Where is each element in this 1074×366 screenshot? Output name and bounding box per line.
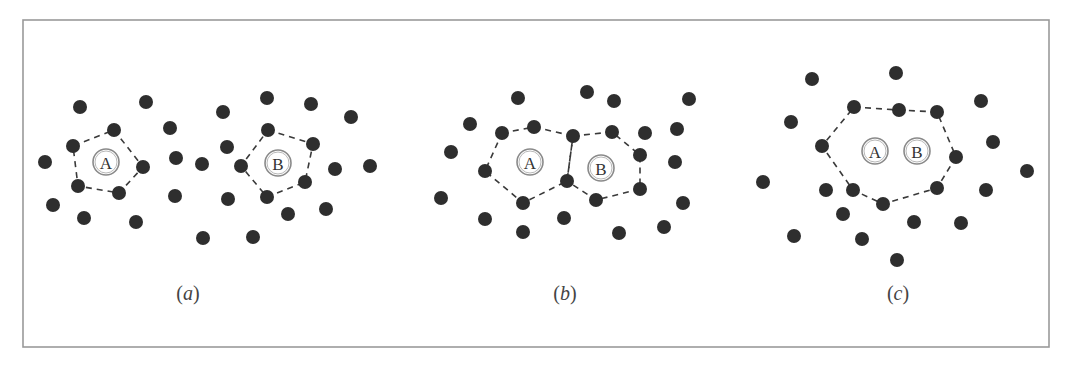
solvent-particle-dot	[889, 66, 903, 80]
solvent-particle-dot	[77, 211, 91, 225]
solvent-particle-dot	[787, 229, 801, 243]
solvent-particle-dot	[169, 151, 183, 165]
solvent-particle-dot	[220, 140, 234, 154]
solvent-particle-dot	[815, 139, 829, 153]
solvent-particle-dot	[907, 215, 921, 229]
solvent-particle-dot	[319, 202, 333, 216]
solvent-particle-dot	[986, 135, 1000, 149]
solvent-particle-dot	[638, 126, 652, 140]
solvent-particle-dot	[892, 103, 906, 117]
solvent-particle-dot	[221, 192, 235, 206]
solvent-particle-dot	[129, 215, 143, 229]
solvent-particle-dot	[478, 212, 492, 226]
solvent-particle-dot	[281, 207, 295, 221]
solvent-particle-dot	[516, 225, 530, 239]
solvent-particle-dot	[195, 157, 209, 171]
solvent-particle-dot	[495, 126, 509, 140]
panel-caption-b: (b)	[553, 282, 576, 305]
solvent-particle-dot	[107, 123, 121, 137]
solvent-particle-dot	[890, 253, 904, 267]
solvent-particle-dot	[304, 97, 318, 111]
caption-letter: c	[894, 282, 903, 304]
solvent-particle-dot	[444, 145, 458, 159]
solvent-particle-dot	[607, 94, 621, 108]
solvent-particle-dot	[979, 183, 993, 197]
solvent-particle-dot	[112, 186, 126, 200]
solvent-particle-dot	[930, 181, 944, 195]
solvent-particle-dot	[71, 179, 85, 193]
panel-caption-a: (a)	[176, 282, 199, 305]
solvent-particle-dot	[46, 198, 60, 212]
solvent-particle-dot	[930, 105, 944, 119]
solvent-particle-dot	[949, 150, 963, 164]
solvent-particle-dot	[756, 175, 770, 189]
solvent-particle-dot	[196, 231, 210, 245]
particle-b: B	[904, 138, 930, 164]
panel-a: AB(a)	[38, 91, 377, 305]
solvent-particle-dot	[633, 182, 647, 196]
solvent-particle-dot	[784, 115, 798, 129]
solvent-particle-dot	[328, 162, 342, 176]
caption-letter: a	[183, 282, 193, 304]
particle-label: B	[272, 155, 283, 174]
solvent-particle-dot	[633, 148, 647, 162]
solvent-particle-dot	[306, 137, 320, 151]
solvent-particle-dot	[612, 226, 626, 240]
solvent-particle-dot	[954, 216, 968, 230]
solvent-particle-dot	[363, 159, 377, 173]
solvent-particle-dot	[216, 105, 230, 119]
caption-letter: b	[560, 282, 570, 304]
particle-a: A	[517, 149, 543, 175]
solvent-particle-dot	[560, 174, 574, 188]
solvent-particle-dot	[670, 122, 684, 136]
figure-canvas: AB(a) AB(b) AB(c)	[0, 0, 1074, 366]
solvent-particle-dot	[668, 155, 682, 169]
solvent-particle-dot	[580, 85, 594, 99]
solvent-particle-dot	[344, 110, 358, 124]
particle-a: A	[862, 138, 888, 164]
solvent-particle-dot	[676, 196, 690, 210]
solvent-particle-dot	[974, 94, 988, 108]
solvent-particle-dot	[836, 207, 850, 221]
caption-close-paren: )	[902, 282, 909, 305]
solvent-particle-dot	[566, 129, 580, 143]
particle-label: B	[911, 143, 922, 162]
panel-b: AB(b)	[434, 85, 696, 305]
solvent-particle-dot	[168, 189, 182, 203]
solvent-particle-dot	[163, 121, 177, 135]
caption-close-paren: )	[570, 282, 577, 305]
solvent-particle-dot	[847, 100, 861, 114]
solvent-particle-dot	[876, 197, 890, 211]
solvent-particle-dot	[855, 232, 869, 246]
particle-b: B	[588, 155, 614, 181]
solvent-particle-dot	[139, 95, 153, 109]
particle-label: A	[869, 143, 882, 162]
solvent-particle-dot	[434, 191, 448, 205]
particle-label: B	[595, 160, 606, 179]
particle-label: A	[524, 154, 537, 173]
solvent-particle-dot	[657, 220, 671, 234]
caption-close-paren: )	[193, 282, 200, 305]
solvent-particle-dot	[478, 164, 492, 178]
solvent-particle-dot	[136, 160, 150, 174]
solvent-particle-dot	[66, 139, 80, 153]
solvent-particle-dot	[234, 159, 248, 173]
particle-a: A	[93, 149, 119, 175]
solvent-particle-dot	[261, 123, 275, 137]
solvent-particle-dot	[527, 120, 541, 134]
solvent-particle-dot	[819, 183, 833, 197]
solvent-particle-dot	[260, 91, 274, 105]
solvent-particle-dot	[463, 117, 477, 131]
solvent-particle-dot	[511, 91, 525, 105]
solvent-particle-dot	[846, 183, 860, 197]
solvent-particle-dot	[260, 190, 274, 204]
solvent-particle-dot	[246, 230, 260, 244]
solvent-particle-dot	[589, 193, 603, 207]
solvent-particle-dot	[682, 92, 696, 106]
particle-b: B	[265, 150, 291, 176]
solvent-particle-dot	[38, 155, 52, 169]
solvent-particle-dot	[298, 175, 312, 189]
figure-svg: AB(a) AB(b) AB(c)	[0, 0, 1074, 366]
solvent-particle-dot	[73, 100, 87, 114]
panel-c: AB(c)	[756, 66, 1034, 305]
